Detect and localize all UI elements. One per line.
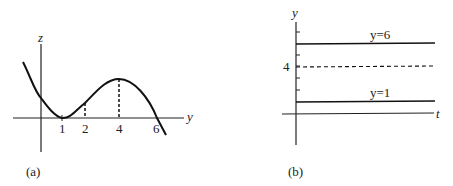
label-y1: y=1 bbox=[370, 85, 390, 100]
t-axis bbox=[282, 113, 434, 114]
tick-label-2: 2 bbox=[82, 121, 89, 136]
panel-a: z y 1 2 4 6 (a) bbox=[13, 30, 193, 179]
z-axis-label: z bbox=[37, 30, 43, 45]
caption-a: (a) bbox=[26, 164, 40, 179]
caption-b: (b) bbox=[288, 164, 303, 179]
line-y1 bbox=[296, 101, 435, 102]
tick-label-4: 4 bbox=[283, 59, 290, 74]
t-axis-label: t bbox=[436, 106, 440, 121]
figure: z y 1 2 4 6 (a) y t 4 y=6 y=1 (b) bbox=[0, 0, 453, 186]
y-axis-label: y bbox=[290, 5, 298, 20]
label-y6: y=6 bbox=[370, 27, 391, 42]
line-y6 bbox=[296, 43, 435, 44]
line-y4-dashed bbox=[296, 66, 435, 67]
curve bbox=[23, 62, 166, 135]
tick-label-4: 4 bbox=[116, 121, 123, 136]
tick-label-6: 6 bbox=[153, 121, 160, 136]
panel-b: y t 4 y=6 y=1 (b) bbox=[282, 5, 440, 179]
tick-label-1: 1 bbox=[59, 121, 66, 136]
y-axis-label: y bbox=[185, 109, 193, 124]
